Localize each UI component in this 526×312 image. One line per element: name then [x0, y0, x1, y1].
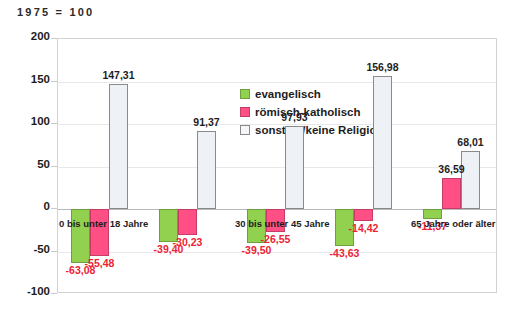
- y-axis-tick-mark: [51, 293, 57, 294]
- category-label: 30 bis unter 45 Jahre: [235, 218, 330, 229]
- bar-rk: [442, 178, 461, 209]
- bar-value-label: 68,01: [447, 136, 495, 148]
- bar-so: [285, 126, 304, 209]
- bar-so: [109, 84, 128, 209]
- category-label: 65 Jahre oder älter: [411, 218, 496, 229]
- bar-rk: [90, 209, 109, 256]
- y-axis-tick-label: 0: [0, 200, 50, 212]
- y-axis-tick-label: -50: [0, 243, 50, 255]
- legend-swatch-ev: [240, 89, 250, 99]
- bar-value-label: -26,55: [252, 233, 300, 245]
- y-axis-tick-label: 100: [0, 115, 50, 127]
- bar-value-label: 97,93: [271, 111, 319, 123]
- bar-so: [197, 131, 216, 209]
- bar-so: [461, 151, 480, 209]
- y-axis-tick-label: -100: [0, 285, 50, 297]
- plot-area: -63,08-39,40-39,50-43,63-11,37-55,48-30,…: [57, 38, 497, 293]
- bar-value-label: -55,48: [76, 257, 124, 269]
- bar-value-label: -30,23: [164, 236, 212, 248]
- bar-so: [373, 76, 392, 209]
- legend-swatch-rk: [240, 107, 250, 117]
- legend-item: evangelisch: [240, 85, 383, 102]
- gridline: [58, 82, 496, 83]
- bar-value-label: 156,98: [359, 61, 407, 73]
- y-axis-tick-label: 150: [0, 73, 50, 85]
- category-label: 0 bis unter 18 Jahre: [59, 218, 148, 229]
- y-axis-tick-label: 50: [0, 158, 50, 170]
- legend-label: evangelisch: [255, 88, 321, 100]
- bar-value-label: -14,42: [340, 222, 388, 234]
- chart-title: 1975 = 100: [17, 6, 94, 18]
- bar-rk: [354, 209, 373, 221]
- bar-rk: [178, 209, 197, 235]
- bar-value-label: -39,50: [233, 244, 281, 256]
- legend-label: sonstige/keine Religion: [255, 124, 383, 136]
- legend-swatch-so: [240, 125, 250, 135]
- bar-value-label: 36,59: [428, 163, 476, 175]
- bar-value-label: 147,31: [95, 69, 143, 81]
- legend-item: sonstige/keine Religion: [240, 121, 383, 138]
- bar-value-label: -43,63: [321, 247, 369, 259]
- y-axis-tick-label: 200: [0, 30, 50, 42]
- bar-value-label: 91,37: [183, 116, 231, 128]
